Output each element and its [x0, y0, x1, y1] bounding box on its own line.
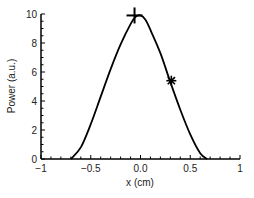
x-axis-label: x (cm) [126, 177, 154, 188]
y-tick-label: 6 [31, 67, 37, 78]
y-tick-label: 4 [31, 96, 37, 107]
power-curve [71, 15, 207, 159]
markers [127, 7, 177, 85]
plus-marker [127, 7, 143, 23]
y-tick-label: 0 [31, 154, 37, 165]
y-tick-label: 10 [26, 9, 38, 20]
x-tick-label: 0.5 [183, 163, 197, 174]
x-tick-label: 0.0 [134, 163, 148, 174]
y-tick-label: 8 [31, 38, 37, 49]
x-tick-label: −0.5 [81, 163, 101, 174]
ticks: −1−0.50.00.510246810 [26, 9, 243, 174]
y-axis-label: Power (a.u.) [6, 59, 17, 113]
y-tick-label: 2 [31, 125, 37, 136]
x-tick-label: 1 [237, 163, 243, 174]
asterisk-marker [166, 76, 176, 86]
axes [41, 14, 240, 159]
x-tick-label: −1 [35, 163, 47, 174]
power-chart: −1−0.50.00.510246810 x (cm) Power (a.u.) [0, 0, 254, 198]
